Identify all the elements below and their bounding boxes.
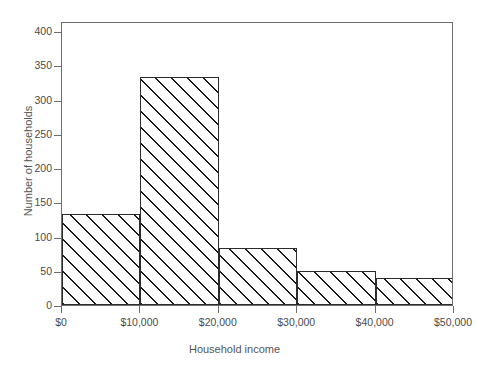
histogram-bar <box>219 248 297 305</box>
y-axis-tick <box>54 32 61 33</box>
x-axis-tick <box>375 306 376 313</box>
x-axis-tick-label: $10,000 <box>94 316 184 328</box>
y-axis-tick <box>54 101 61 102</box>
y-axis-tick <box>54 306 61 307</box>
scan-artifact <box>0 0 469 9</box>
x-axis-tick <box>61 306 62 313</box>
x-axis-tick-label: $20,000 <box>173 316 263 328</box>
y-axis-tick-label: 50 <box>0 266 52 277</box>
x-axis-tick <box>296 306 297 313</box>
x-axis-tick-label: $40,000 <box>330 316 420 328</box>
y-axis-tick <box>54 203 61 204</box>
y-axis-tick <box>54 238 61 239</box>
histogram-bar <box>297 271 375 305</box>
y-axis-tick <box>54 66 61 67</box>
y-axis-tick-label: 400 <box>0 26 52 37</box>
histogram-bar <box>62 214 140 305</box>
x-axis-tick-label: $30,000 <box>251 316 341 328</box>
x-axis-tick <box>218 306 219 313</box>
y-axis-tick <box>54 169 61 170</box>
plot-frame <box>61 22 453 306</box>
x-axis-title: Household income <box>0 343 469 355</box>
x-axis-tick <box>453 306 454 313</box>
y-axis-tick <box>54 135 61 136</box>
plot-area <box>62 23 452 305</box>
histogram-bar <box>140 77 218 305</box>
histogram-bar <box>376 278 452 305</box>
x-axis-tick-label: $50,000 <box>408 316 477 328</box>
y-axis-tick-label: 0 <box>0 300 52 311</box>
y-axis-tick <box>54 272 61 273</box>
x-axis-tick-label: $0 <box>16 316 106 328</box>
y-axis-title: Number of households <box>22 61 34 261</box>
x-axis-tick <box>139 306 140 313</box>
